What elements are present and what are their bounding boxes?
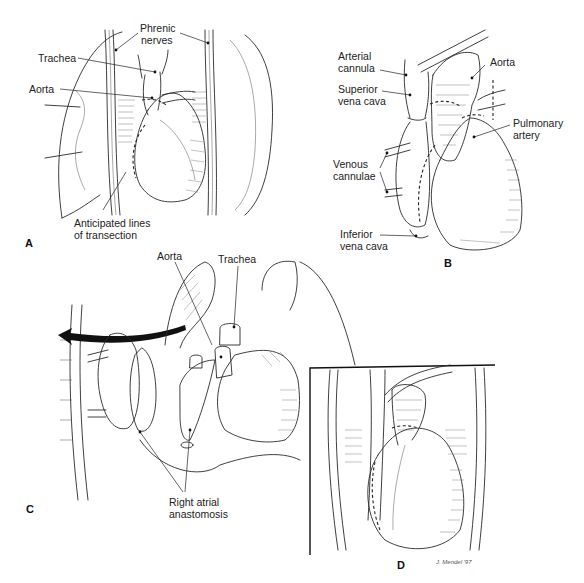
panel-d-right-wall <box>470 368 486 550</box>
panel-c-aorta-leader <box>175 262 212 345</box>
panel-d-heart-groove <box>393 445 405 530</box>
panel-d-drawing <box>310 365 495 555</box>
panel-c-trachea-pointer <box>233 326 236 329</box>
panel-c-anastomosis-leaders <box>140 430 190 492</box>
panel-b-arterial-cannula-leader <box>380 70 406 75</box>
panel-c-trachea-stump <box>220 324 240 346</box>
panel-a-phrenic-pointer-2 <box>207 42 210 45</box>
panel-b-arterial-cannula <box>418 30 488 72</box>
label-arterial-cannula-line2: cannula <box>338 62 375 74</box>
panel-b-right-atrium <box>396 122 430 227</box>
panel-a-aorta-pointer <box>151 97 154 100</box>
panel-a-trachea <box>138 50 168 78</box>
label-trachea-a: Trachea <box>38 52 76 64</box>
label-aorta-a: Aorta <box>29 83 54 95</box>
label-venous-cannulae-line2: cannulae <box>333 170 376 182</box>
panel-b-transection-aorta <box>430 101 460 106</box>
panel-a-phrenic-pointer-1 <box>115 49 118 52</box>
panel-d-aortic-anastomosis <box>392 426 418 428</box>
panel-b-transection-pa <box>462 115 484 118</box>
label-pulmonary-artery-line2: artery <box>513 129 540 141</box>
label-arterial-cannula-line1: Arterial <box>338 50 371 62</box>
panel-a-drawing <box>45 30 273 218</box>
panel-c-retraction-arrow <box>58 325 186 345</box>
panel-c-anastomosis-pointer-2 <box>189 429 192 432</box>
panel-a-pulmonary-vessel <box>162 91 195 103</box>
panel-a-retractor-1 <box>45 105 80 107</box>
panel-c-aorta-pointer <box>220 356 223 359</box>
panel-d-atrial-suture-line <box>372 462 380 530</box>
panel-c-venous-cannula-upper <box>88 350 108 362</box>
panel-a-right-lung-inner <box>230 40 256 210</box>
panel-letter-b: B <box>444 257 452 269</box>
panel-a-trachea-leader <box>78 58 155 72</box>
panel-c-right-lung-contour <box>300 262 355 365</box>
panel-b-ivc-pointer <box>415 235 418 238</box>
panel-a-right-nerve-strip-1 <box>205 30 208 215</box>
artist-signature: J. Mendel '97 <box>436 556 472 568</box>
panel-c-ivc-opening <box>181 442 193 448</box>
panel-b-aorta-pointer <box>471 77 474 80</box>
panel-b-svc-leader <box>382 91 410 95</box>
panel-b-pa-pointer <box>473 136 476 139</box>
panel-b-venous-pointer-2 <box>386 191 389 194</box>
panel-a-retractor-2 <box>45 152 82 158</box>
label-svc-line1: Superior <box>338 83 378 95</box>
label-aorta-b: Aorta <box>490 56 515 68</box>
panel-c-drawing <box>58 261 300 500</box>
label-anticipated-lines: Anticipated lines <box>74 217 150 229</box>
label-phrenic-nerves-line2: nerves <box>141 34 173 46</box>
label-svc-line2: vena cava <box>338 95 386 107</box>
panel-b-heart-hatching <box>460 160 521 243</box>
panel-c-donor-heart <box>218 350 300 442</box>
panel-a-trachea-pointer <box>154 71 157 74</box>
surgical-illustration-figure: Phrenic nerves Trachea Aorta Anticipated… <box>0 0 584 583</box>
label-right-atrial-line2: anastomosis <box>169 508 228 520</box>
panel-letter-c: C <box>26 503 34 515</box>
panel-c-trachea-leader <box>234 266 238 327</box>
panel-a-aorta <box>143 72 161 115</box>
panel-d-svc <box>368 370 385 520</box>
panel-c-donor-right-atrium <box>180 360 215 440</box>
panel-c-atrial-cuff <box>130 348 156 431</box>
panel-a-right-nerve <box>209 30 212 215</box>
label-trachea-c: Trachea <box>218 253 256 265</box>
panel-b-aorta-leader <box>472 65 485 78</box>
panel-a-left-lung-inner <box>75 90 85 190</box>
panel-d-hilum-hatching <box>345 430 467 462</box>
panel-c-anastomosis-pointer-1 <box>139 431 142 434</box>
panel-b-svc <box>404 60 429 118</box>
panel-b-ivc-leader <box>380 235 416 236</box>
label-of-transection: of transection <box>74 229 137 241</box>
panel-c-venous-cannula-lower <box>88 410 106 417</box>
panel-b-svc-tie <box>408 118 426 120</box>
panel-a-heart-groove <box>160 120 195 180</box>
panel-c-pa-stump <box>190 355 202 368</box>
panel-b-venous-pointer-1 <box>386 152 389 155</box>
label-ivc-line1: Inferior <box>340 228 373 240</box>
panel-letter-a: A <box>25 237 33 249</box>
label-pulmonary-artery-line1: Pulmonary <box>513 117 563 129</box>
panel-b-svc-pointer <box>409 94 412 97</box>
panel-b-pa-leader <box>474 125 510 137</box>
panel-c-diaphragm <box>140 440 300 472</box>
panel-a-right-lung-outline <box>245 35 273 215</box>
panel-c-heart-hatching <box>262 352 297 430</box>
panel-d-heart-hatching <box>440 470 464 532</box>
panel-d-innominate-vein <box>385 365 452 402</box>
panel-b-pulmonary-branch <box>478 90 505 110</box>
panel-b-aorta <box>431 52 480 161</box>
panel-a-aorta-leader <box>60 89 152 98</box>
panel-b-heart <box>431 118 522 250</box>
panel-c-right-lung-top <box>262 261 297 310</box>
label-phrenic-nerves-line1: Phrenic <box>140 22 176 34</box>
panel-a-right-nerve-strip-2 <box>213 30 216 215</box>
panel-a-left-nerve-strip-1 <box>105 30 112 215</box>
panel-d-left-wall <box>328 370 346 550</box>
panel-d-inset-frame <box>310 365 495 555</box>
label-aorta-c: Aorta <box>157 250 182 262</box>
panel-b-ivc <box>410 230 428 238</box>
panel-b-arterial-cannula-pointer <box>405 74 408 77</box>
panel-a-lung-base-left <box>62 195 100 218</box>
label-venous-cannulae-line1: Venous <box>333 158 368 170</box>
